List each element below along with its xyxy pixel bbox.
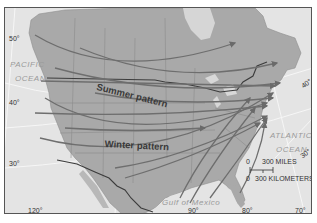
storm-track-map: PACIFIC OCEAN ATLANTIC OCEAN Gulf of Mex…: [4, 7, 312, 214]
latitude-50-label: 50°: [9, 35, 20, 42]
atlantic-ocean-label: ATLANTIC: [270, 132, 312, 140]
longitude-80-label: 80°: [242, 207, 253, 214]
latitude-40-west-label: 40°: [9, 99, 20, 106]
scale-km-zero: 0: [246, 175, 250, 182]
map-canvas: [5, 8, 312, 214]
longitude-120-label: 120°: [28, 207, 42, 214]
scale-miles-label: 300 MILES: [262, 158, 297, 165]
gulf-of-mexico-label: Gulf of Mexico: [162, 199, 220, 207]
scale-miles-zero: 0: [246, 158, 250, 165]
latitude-30-west-label: 30°: [9, 160, 20, 167]
pacific-ocean-label-line2: OCEAN: [15, 75, 46, 83]
longitude-90-label: 90°: [188, 207, 199, 214]
longitude-70-label: 70°: [295, 207, 306, 214]
pacific-ocean-label: PACIFIC: [10, 61, 44, 69]
scale-km-label: 300 KILOMETERS: [255, 175, 312, 182]
